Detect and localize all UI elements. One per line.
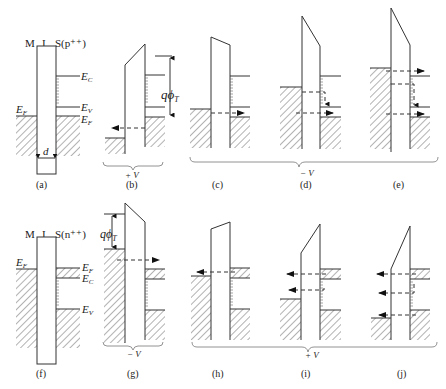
panel-label-g: (g) bbox=[127, 368, 139, 380]
panel-h: + V (h) bbox=[191, 222, 437, 380]
bias-label-minus-v: − V bbox=[300, 168, 315, 178]
label-ec: EC bbox=[80, 70, 93, 84]
panel-j: (j) bbox=[371, 226, 430, 380]
panel-label-h: (h) bbox=[212, 368, 224, 380]
panel-b: qϕT + V (b) bbox=[103, 44, 179, 191]
panel-d: − V (d) bbox=[190, 16, 438, 191]
panel-a: M I S(p⁺⁺) EC EV EF EF d (a) bbox=[15, 37, 93, 191]
panel-label-e: (e) bbox=[393, 179, 404, 191]
panel-label-b: (b) bbox=[126, 179, 138, 191]
bias-label-minus-v-bottom: − V bbox=[127, 349, 142, 359]
label-semiconductor-n: S(n⁺⁺) bbox=[55, 228, 86, 241]
panel-label-d: (d) bbox=[300, 179, 312, 191]
panel-g: qϕT − V (g) bbox=[100, 203, 165, 380]
label-q-phi-t: qϕT bbox=[161, 87, 179, 104]
panel-label-c: (c) bbox=[212, 179, 223, 191]
panel-label-a: (a) bbox=[36, 179, 47, 191]
panel-label-f: (f) bbox=[36, 368, 46, 380]
label-metal: M bbox=[25, 37, 35, 49]
diagram-canvas: M I S(p⁺⁺) EC EV EF EF d (a) bbox=[0, 0, 446, 389]
bias-label-plus-v-bottom: + V bbox=[305, 350, 320, 360]
panel-label-j: (j) bbox=[397, 368, 406, 380]
panel-f: M I S(n⁺⁺) EF EF EC EV (f) bbox=[15, 228, 94, 380]
panel-e: (e) bbox=[370, 8, 430, 191]
panel-c: (c) bbox=[190, 37, 250, 191]
label-ef-semiconductor: EF bbox=[80, 113, 93, 127]
insulator-barrier-bottom bbox=[37, 237, 56, 364]
label-ef-metal-bottom: EF bbox=[15, 256, 28, 270]
label-ef-metal: EF bbox=[15, 103, 28, 117]
band-diagram-figure: M I S(p⁺⁺) EC EV EF EF d (a) bbox=[0, 0, 446, 389]
label-q-phi-t-bottom: qϕT bbox=[100, 227, 117, 243]
label-thickness-d: d bbox=[43, 145, 49, 157]
label-metal-bottom: M bbox=[25, 228, 35, 240]
panel-label-i: (i) bbox=[301, 368, 310, 380]
label-ev-bottom: EV bbox=[81, 303, 94, 317]
label-semiconductor-p: S(p⁺⁺) bbox=[55, 37, 86, 50]
